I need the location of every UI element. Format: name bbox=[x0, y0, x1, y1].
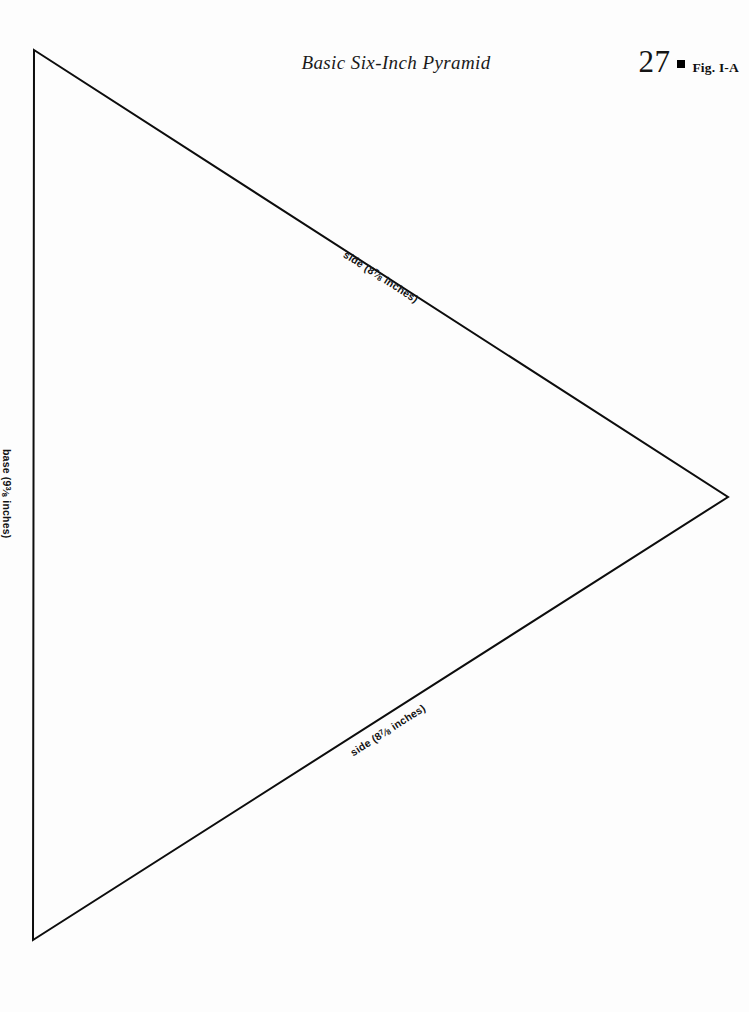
triangle-outline bbox=[0, 0, 749, 1012]
label-base-suffix: inches) bbox=[1, 497, 13, 538]
pyramid-template-figure bbox=[0, 0, 749, 1012]
book-page: Basic Six-Inch Pyramid 27 Fig. I-A side … bbox=[0, 0, 749, 1012]
label-base-prefix: base (9 bbox=[1, 449, 13, 487]
triangle-shape bbox=[33, 50, 728, 940]
label-base: base (93⁄8 inches) bbox=[1, 449, 13, 538]
